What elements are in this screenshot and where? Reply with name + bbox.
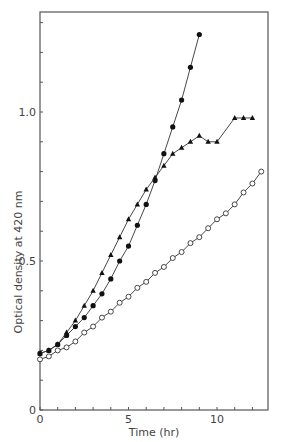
data-point	[170, 151, 175, 156]
data-point	[170, 256, 175, 261]
data-point	[117, 300, 122, 305]
x-axis-title: Time (hr)	[128, 426, 180, 439]
data-series	[37, 32, 263, 362]
data-point	[90, 288, 95, 293]
data-point	[126, 294, 131, 299]
data-point	[170, 124, 175, 129]
data-point	[206, 226, 211, 231]
y-axis-title: Optical density at 420 nm	[12, 191, 25, 334]
data-point	[188, 139, 193, 144]
data-point	[108, 309, 113, 314]
data-point	[259, 169, 264, 174]
data-point	[179, 250, 184, 255]
data-point	[197, 32, 202, 37]
data-point	[223, 211, 228, 216]
data-point	[91, 303, 96, 308]
data-point	[250, 115, 255, 120]
data-point	[38, 357, 43, 362]
data-point	[161, 264, 166, 269]
data-point	[188, 241, 193, 246]
growth-chart: 051000.51.0 Time (hr) Optical density at…	[0, 0, 281, 442]
data-point	[135, 201, 140, 206]
data-point	[117, 258, 122, 263]
data-point	[215, 217, 220, 222]
data-point	[99, 270, 104, 275]
series-filled-circle	[37, 32, 202, 356]
data-point	[99, 315, 104, 320]
y-tick-label: 1.0	[19, 106, 37, 119]
y-tick-label: 0	[29, 404, 36, 417]
data-point	[73, 324, 78, 329]
series-filled-triangle	[37, 115, 255, 355]
data-point	[117, 234, 122, 239]
data-point	[241, 190, 246, 195]
data-point	[197, 133, 202, 138]
data-point	[99, 291, 104, 296]
data-point	[108, 276, 113, 281]
x-tick-label: 5	[125, 413, 132, 426]
data-point	[205, 139, 210, 144]
data-point	[179, 145, 184, 150]
data-point	[73, 339, 78, 344]
data-point	[161, 151, 166, 156]
data-point	[188, 65, 193, 70]
data-point	[126, 216, 131, 221]
data-point	[55, 348, 60, 353]
data-point	[153, 270, 158, 275]
data-point	[46, 354, 51, 359]
data-point	[144, 202, 149, 207]
data-point	[135, 285, 140, 290]
data-point	[82, 303, 87, 308]
data-point	[82, 330, 87, 335]
data-point	[135, 223, 140, 228]
data-point	[241, 115, 246, 120]
data-point	[197, 235, 202, 240]
data-point	[144, 279, 149, 284]
plot-frame	[40, 12, 268, 410]
data-point	[108, 252, 113, 257]
plot-border	[40, 12, 268, 410]
data-point	[126, 244, 131, 249]
data-point	[91, 324, 96, 329]
data-point	[250, 181, 255, 186]
data-point	[232, 115, 237, 120]
data-point	[64, 345, 69, 350]
series-open-circle	[38, 169, 264, 362]
x-tick-label: 10	[210, 413, 224, 426]
data-point	[82, 315, 87, 320]
data-point	[232, 202, 237, 207]
data-point	[179, 97, 184, 102]
data-point	[73, 318, 78, 323]
x-tick-label: 0	[37, 413, 44, 426]
